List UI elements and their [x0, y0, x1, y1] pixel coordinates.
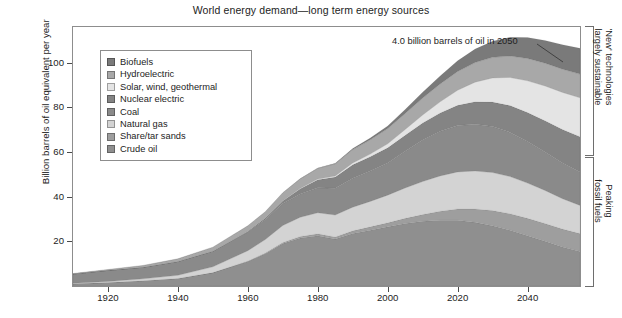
- bracket-label-line2: largely sustainable: [592, 2, 603, 132]
- bracket-label-line2: fossil fuels: [592, 136, 603, 266]
- x-tick-label: 2020: [438, 292, 478, 303]
- legend-label: Biofuels: [120, 56, 153, 68]
- legend-label: Solar, wind, geothermal: [120, 81, 217, 93]
- x-tick-mark: [248, 287, 249, 292]
- legend-label: Natural gas: [120, 118, 168, 130]
- legend-swatch: [107, 83, 115, 91]
- bracket-label: 'New' technologieslargely sustainable: [592, 2, 614, 132]
- x-tick-mark: [318, 287, 319, 292]
- legend-item[interactable]: Hydroelectric: [107, 68, 245, 80]
- legend-label: Share/tar sands: [120, 130, 186, 142]
- legend-item[interactable]: Natural gas: [107, 118, 245, 130]
- legend-swatch: [107, 145, 115, 153]
- x-tick-label: 2040: [508, 292, 548, 303]
- bracket-label: Peakingfossil fuels: [592, 136, 614, 266]
- legend-swatch: [107, 71, 115, 79]
- chart-page: World energy demand—long term energy sou…: [0, 0, 622, 318]
- chart-annotation: 4.0 billion barrels of oil in 2050: [392, 36, 518, 46]
- x-tick-mark: [178, 287, 179, 292]
- legend-item[interactable]: Nuclear electric: [107, 93, 245, 105]
- y-tick-label: 80: [38, 101, 64, 112]
- x-tick-mark: [458, 287, 459, 292]
- legend-swatch: [107, 108, 115, 116]
- legend-label: Coal: [120, 106, 139, 118]
- legend-item[interactable]: Crude oil: [107, 143, 245, 155]
- y-tick-label: 100: [38, 57, 64, 68]
- legend-item[interactable]: Share/tar sands: [107, 130, 245, 142]
- legend-item[interactable]: Solar, wind, geothermal: [107, 81, 245, 93]
- x-tick-label: 1960: [228, 292, 268, 303]
- y-tick-label: 40: [38, 191, 64, 202]
- x-tick-label: 1940: [158, 292, 198, 303]
- y-tick-label: 60: [38, 146, 64, 157]
- x-tick-mark: [108, 287, 109, 292]
- legend-swatch: [107, 95, 115, 103]
- chart-title: World energy demand—long term energy sou…: [0, 4, 622, 16]
- legend-label: Crude oil: [120, 143, 157, 155]
- legend-label: Nuclear electric: [120, 93, 184, 105]
- y-tick-label: 20: [38, 235, 64, 246]
- bracket-label-line1: Peaking: [603, 136, 614, 266]
- x-tick-mark: [528, 287, 529, 292]
- x-tick-label: 1980: [298, 292, 338, 303]
- legend-item[interactable]: Coal: [107, 106, 245, 118]
- x-tick-mark: [388, 287, 389, 292]
- bracket-label-line1: 'New' technologies: [603, 2, 614, 132]
- legend-swatch: [107, 120, 115, 128]
- x-tick-label: 2000: [368, 292, 408, 303]
- legend-swatch: [107, 58, 115, 66]
- x-tick-label: 1920: [88, 292, 128, 303]
- legend-swatch: [107, 133, 115, 141]
- legend-label: Hydroelectric: [120, 68, 174, 80]
- legend-item[interactable]: Biofuels: [107, 56, 245, 68]
- chart-legend: BiofuelsHydroelectricSolar, wind, geothe…: [100, 50, 252, 161]
